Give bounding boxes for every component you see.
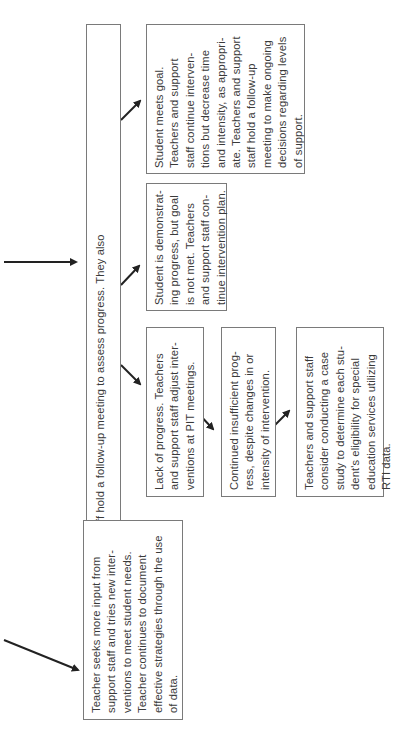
- lack-line: and support staff adjust inter-: [167, 330, 182, 490]
- demonstrating-line: is not met. Teachers: [183, 185, 198, 305]
- meets-goal-line: Student meets goal.: [152, 23, 167, 168]
- meets-goal-line: tions but decrease time: [198, 23, 213, 168]
- meets-goal-line: ate. Teachers and support: [229, 23, 244, 168]
- demonstrating-line: Student is demonstrat-: [152, 185, 167, 305]
- meets-goal-line: of support.: [291, 23, 306, 168]
- arrow-to-left-box: [4, 640, 78, 670]
- meets-goal-line: staff hold a follow-up: [244, 23, 259, 168]
- demonstrating-line: ing progress, but goal: [167, 185, 182, 305]
- demonstrating-line: and support staff con-: [198, 185, 213, 305]
- lack-line: ventions at PIT meetings.: [183, 330, 198, 490]
- left-box-line: ventions to meet student needs.: [120, 523, 135, 713]
- case-study-line: education services utilizing: [364, 330, 379, 490]
- outcome-case-study: Teachers and support staff consider cond…: [296, 327, 384, 497]
- outcome-demonstrating-progress: Student is demonstrat- ing progress, but…: [146, 183, 227, 311]
- case-study-line: dent's eligibility for special: [348, 330, 363, 490]
- arrow-to-meets-goal: [121, 101, 140, 120]
- case-study-line: Teachers and support staff: [302, 330, 317, 490]
- outcome-lack-of-progress: Lack of progress. Teachers and support s…: [146, 327, 204, 497]
- arrow-to-lack: [121, 365, 140, 384]
- left-box-line: support staff and tries new inter-: [104, 523, 119, 713]
- lack-line: Lack of progress. Teachers: [152, 330, 167, 490]
- demonstrating-line: tinue intervention plan.: [214, 185, 229, 305]
- left-box-line: Teacher continues to document: [135, 523, 150, 713]
- meets-goal-line: and intensity, as appropri-: [214, 23, 229, 168]
- left-box-teacher-seeks-input: Teacher seeks more input from support st…: [83, 520, 183, 720]
- insufficient-line: intensity of intervention.: [258, 330, 273, 490]
- insufficient-line: ress, despite changes in or: [242, 330, 257, 490]
- outcome-continued-insufficient: Continued insufficient prog- ress, despi…: [221, 327, 276, 497]
- outcome-meets-goal: Student meets goal. Teachers and support…: [146, 24, 305, 174]
- meets-goal-line: decisions regarding levels: [275, 23, 290, 168]
- case-study-line: consider conducting a case: [317, 330, 332, 490]
- left-box-line: effective strategies through the use: [151, 523, 166, 713]
- left-box-line: of data.: [166, 523, 181, 713]
- meets-goal-line: meeting to make ongoing: [260, 23, 275, 168]
- insufficient-line: Continued insufficient prog-: [227, 330, 242, 490]
- meets-goal-line: Teachers and support: [167, 23, 182, 168]
- meets-goal-line: staff continue interven-: [183, 23, 198, 168]
- case-study-line: RTI data.: [379, 330, 394, 490]
- left-box-line: Teacher seeks more input from: [89, 523, 104, 713]
- case-study-line: study to determine each stu-: [333, 330, 348, 490]
